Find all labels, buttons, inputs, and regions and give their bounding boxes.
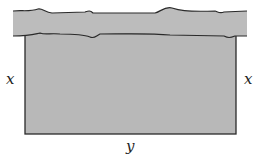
diagram-canvas — [0, 0, 260, 155]
bottom-side-label: y — [126, 139, 134, 154]
right-side-label: x — [244, 72, 252, 87]
left-side-label: x — [6, 72, 14, 87]
field-rectangle — [25, 33, 236, 134]
